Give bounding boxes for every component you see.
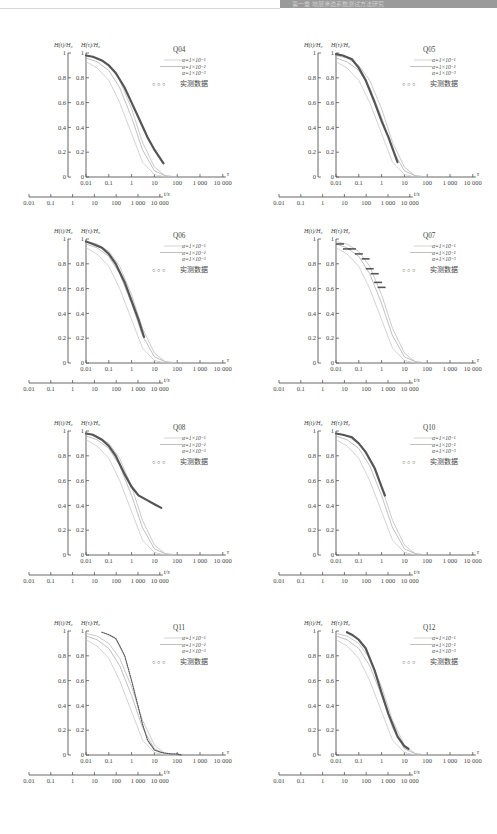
time-tick-label: 10 000 (401, 199, 419, 206)
y-tick-label: 1 (63, 627, 66, 634)
y-tick-label: 0.4 (76, 310, 85, 317)
tau-tick-label: 100 (172, 365, 182, 372)
chart-q10: H(t)/H₀H(τ)/H₀00.20.40.60.8100.20.40.60.… (250, 418, 497, 603)
tau-tick-label: 100 (172, 557, 182, 564)
time-tick-label: 1 000 (381, 777, 396, 784)
time-tick-label: 10 000 (151, 777, 169, 784)
tau-tick-label: 1 (130, 365, 133, 372)
chart-q12: H(t)/H₀H(τ)/H₀00.20.40.60.8100.20.40.60.… (250, 618, 497, 803)
legend-marker-icon: ○ ○ ○ (402, 267, 415, 273)
y-tick-label: 1 (63, 427, 66, 434)
time-tick-label: 1 000 (381, 385, 396, 392)
y-tick-label: 0.2 (76, 526, 84, 533)
inner-y-axis-label: H(τ)/H₀ (330, 227, 350, 235)
y-tick-label: 0 (63, 173, 66, 180)
tau-tick-label: 100 (422, 757, 432, 764)
inner-y-axis-label: H(τ)/H₀ (80, 619, 100, 627)
y-tick-label: 0.4 (76, 124, 85, 131)
time-tick-label: 10 (341, 577, 348, 584)
time-axis-label: t/s (164, 190, 170, 197)
inner-y-axis-label: H(τ)/H₀ (330, 619, 350, 627)
y-tick-label: 0.6 (308, 477, 317, 484)
chart-title: Q06 (173, 232, 186, 240)
tau-tick-label: 1 (130, 557, 133, 564)
y-tick-label: 0.2 (308, 526, 316, 533)
y-tick-label: 0.4 (326, 310, 335, 317)
legend-label: α=1×10⁻³ (432, 648, 456, 654)
tau-tick-label: 100 (422, 365, 432, 372)
legend-measured-label: 实测数据 (430, 657, 458, 666)
y-tick-label: 0.4 (58, 702, 67, 709)
y-tick-label: 1 (331, 427, 334, 434)
inner-y-axis-label: H(τ)/H₀ (330, 419, 350, 427)
outer-y-axis-label: H(t)/H₀ (53, 619, 73, 627)
y-tick-label: 0.8 (326, 452, 334, 459)
tau-tick-label: 0.1 (105, 757, 113, 764)
tau-tick-label: 0.1 (355, 557, 363, 564)
time-tick-label: 0.1 (297, 199, 305, 206)
tau-tick-label: 0.1 (105, 365, 113, 372)
chart-panel-q07: H(t)/H₀H(τ)/H₀00.20.40.60.8100.20.40.60.… (250, 226, 497, 415)
model-curve-2 (86, 636, 177, 755)
chart-q05: H(t)/H₀H(τ)/H₀00.20.40.60.8100.20.40.60.… (250, 40, 497, 225)
outer-y-axis-label: H(t)/H₀ (53, 41, 73, 49)
y-tick-label: 0.6 (58, 285, 67, 292)
y-tick-label: 0.6 (308, 99, 317, 106)
tau-tick-label: 0.1 (355, 365, 363, 372)
model-curve-3 (86, 634, 177, 756)
y-tick-label: 0.8 (326, 74, 334, 81)
tau-axis-label: τ (477, 748, 480, 755)
chart-q11: H(t)/H₀H(τ)/H₀00.20.40.60.8100.20.40.60.… (0, 618, 247, 803)
tau-tick-label: 1 (130, 757, 133, 764)
y-tick-label: 1 (81, 627, 84, 634)
y-tick-label: 1 (313, 235, 316, 242)
legend-label: α=1×10⁻³ (182, 70, 206, 76)
tau-tick-label: 100 (172, 757, 182, 764)
time-tick-label: 0.1 (297, 577, 305, 584)
y-tick-label: 0.8 (326, 652, 334, 659)
time-tick-label: 10 (341, 777, 348, 784)
legend-measured-label: 实测数据 (430, 79, 458, 88)
chart-panel-q08: H(t)/H₀H(τ)/H₀00.20.40.60.8100.20.40.60.… (0, 418, 247, 607)
model-curve-2 (336, 436, 427, 555)
y-tick-label: 0.6 (308, 285, 317, 292)
y-tick-label: 0 (63, 551, 66, 558)
y-tick-label: 1 (313, 627, 316, 634)
model-curve-1 (336, 440, 427, 555)
tau-tick-label: 0.01 (80, 557, 91, 564)
tau-tick-label: 10 (401, 757, 408, 764)
tau-tick-label: 10 000 (214, 557, 232, 564)
tau-tick-label: 1 000 (443, 557, 458, 564)
tau-axis-label: τ (477, 170, 480, 177)
model-curve-1 (86, 248, 177, 363)
page-header-text: 第一章 地层渗透系数测试方法研究 (292, 0, 384, 8)
time-tick-label: 100 (111, 777, 121, 784)
time-tick-label: 10 000 (401, 777, 419, 784)
legend-measured-label: 实测数据 (180, 79, 208, 88)
y-tick-label: 0.4 (308, 702, 317, 709)
y-tick-label: 0.8 (326, 260, 334, 267)
y-tick-label: 0 (313, 551, 316, 558)
legend-label: α=1×10⁻¹ (182, 243, 206, 249)
y-tick-label: 0.2 (76, 334, 84, 341)
legend-label: α=1×10⁻³ (182, 648, 206, 654)
y-tick-label: 0.2 (326, 526, 334, 533)
y-tick-label: 1 (81, 49, 84, 56)
y-tick-label: 0.6 (76, 99, 85, 106)
chart-panel-q12: H(t)/H₀H(τ)/H₀00.20.40.60.8100.20.40.60.… (250, 618, 497, 807)
y-tick-label: 0.6 (326, 677, 335, 684)
tau-tick-label: 0.1 (355, 179, 363, 186)
time-tick-label: 0.1 (47, 199, 55, 206)
tau-tick-label: 10 (151, 179, 158, 186)
time-axis-label: t/s (164, 568, 170, 575)
tau-tick-label: 10 (401, 557, 408, 564)
tau-tick-label: 100 (172, 179, 182, 186)
y-tick-label: 0.6 (58, 677, 67, 684)
tau-tick-label: 1 (130, 179, 133, 186)
legend-measured-label: 实测数据 (180, 657, 208, 666)
time-tick-label: 1 (71, 577, 74, 584)
time-tick-label: 10 000 (151, 385, 169, 392)
legend-label: α=1×10⁻¹ (432, 243, 456, 249)
y-tick-label: 1 (63, 49, 66, 56)
legend-marker-icon: ○ ○ ○ (402, 81, 415, 87)
